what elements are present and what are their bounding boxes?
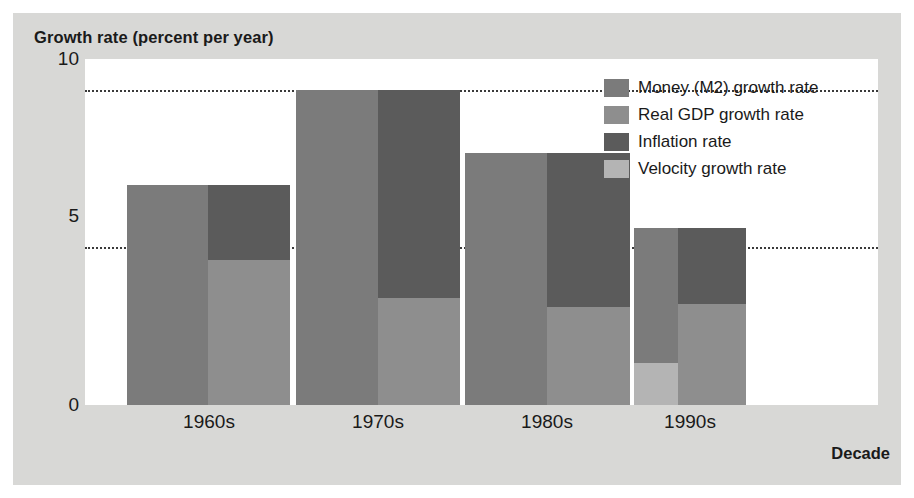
- legend-item-money-m2: Money (M2) growth rate: [604, 74, 884, 101]
- segment-real-gdp: [678, 304, 746, 405]
- legend-swatch-money-m2: [604, 79, 629, 97]
- legend-item-velocity: Velocity growth rate: [604, 155, 884, 182]
- legend-label-money-m2: Money (M2) growth rate: [638, 79, 818, 96]
- legend-label-inflation: Inflation rate: [638, 133, 732, 150]
- chart-legend: Money (M2) growth rate Real GDP growth r…: [604, 74, 884, 182]
- legend-swatch-inflation: [604, 133, 629, 151]
- y-tick-label-0: 0: [68, 395, 79, 414]
- segment-velocity: [634, 363, 678, 405]
- legend-swatch-real-gdp: [604, 106, 629, 124]
- bar-1970s-gdp-inflation: [378, 90, 460, 405]
- segment-money-m2: [296, 90, 378, 405]
- y-axis-title: Growth rate (percent per year): [34, 28, 274, 47]
- x-tick-label-1960s: 1960s: [165, 411, 253, 433]
- bar-1990s-money-m2: [634, 228, 678, 405]
- segment-real-gdp: [378, 298, 460, 405]
- bar-group-1960s: [127, 59, 290, 405]
- bar-1970s-money-m2: [296, 90, 378, 405]
- segment-real-gdp: [208, 260, 290, 405]
- plot-area: Money (M2) growth rate Real GDP growth r…: [85, 59, 878, 405]
- x-tick-label-1970s: 1970s: [334, 411, 422, 433]
- legend-label-real-gdp: Real GDP growth rate: [638, 106, 804, 123]
- bar-1990s-gdp-inflation: [678, 228, 746, 405]
- y-axis-tick-labels: 10 5 0: [24, 59, 79, 405]
- segment-money-m2: [634, 228, 678, 363]
- bar-1960s-gdp-inflation: [208, 185, 290, 405]
- chart-screenshot: Growth rate (percent per year) 10 5 0: [0, 0, 914, 498]
- segment-inflation: [208, 185, 290, 260]
- legend-item-real-gdp: Real GDP growth rate: [604, 101, 884, 128]
- x-tick-label-1980s: 1980s: [503, 411, 591, 433]
- x-tick-label-1990s: 1990s: [646, 411, 734, 433]
- x-axis-tick-labels: 1960s 1970s 1980s 1990s: [85, 411, 878, 439]
- segment-money-m2: [127, 185, 208, 405]
- bar-group-1970s: [296, 59, 460, 405]
- bar-1960s-money-m2: [127, 185, 208, 405]
- bar-1980s-money-m2: [465, 153, 547, 405]
- segment-money-m2: [465, 153, 547, 405]
- legend-item-inflation: Inflation rate: [604, 128, 884, 155]
- segment-real-gdp: [547, 307, 630, 405]
- y-tick-label-5: 5: [68, 206, 79, 225]
- segment-inflation: [378, 90, 460, 298]
- segment-inflation: [678, 228, 746, 304]
- bar-1980s-gdp-inflation: [547, 153, 630, 405]
- x-axis-title: Decade: [831, 444, 890, 463]
- legend-label-velocity: Velocity growth rate: [638, 160, 786, 177]
- y-tick-label-10: 10: [58, 49, 79, 68]
- legend-swatch-velocity: [604, 160, 629, 178]
